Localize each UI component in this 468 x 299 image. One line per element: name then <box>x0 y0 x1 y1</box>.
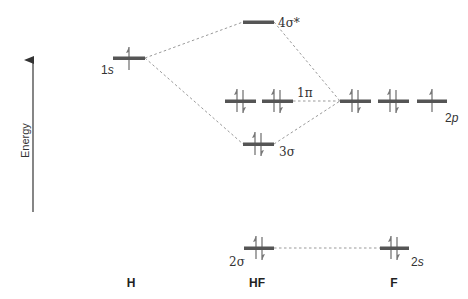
species-label-f: F <box>390 276 397 290</box>
level-f-2p-a <box>340 89 371 113</box>
species-label-hf: HF <box>249 276 265 290</box>
level-bar <box>243 21 274 25</box>
energy-axis: Energy <box>19 60 33 212</box>
energy-axis-label: Energy <box>19 123 31 158</box>
level-bar <box>243 143 274 147</box>
down-electron-head-icon <box>243 107 246 113</box>
up-electron-head-icon <box>234 89 237 95</box>
level-hf-1pi-b: 1π <box>262 86 313 113</box>
level-bar <box>262 100 293 104</box>
level-label-4sigma-star: 4σ* <box>278 16 300 30</box>
level-bar <box>380 247 409 251</box>
connector-3sigma-f2p <box>274 101 340 144</box>
level-label-3sigma: 3σ <box>279 145 295 159</box>
level-bar <box>378 100 409 104</box>
level-bar <box>113 57 145 61</box>
level-f-2s: 2s <box>380 236 424 269</box>
level-hf-4sigma-star: 4σ* <box>243 16 300 30</box>
up-electron-head-icon <box>252 132 255 138</box>
level-label-1s: 1s <box>101 63 114 77</box>
level-bar <box>225 100 256 104</box>
level-f-2p-c: 2p <box>417 89 459 125</box>
level-label-2p: 2p <box>445 111 459 125</box>
level-hf-2sigma: 2σ <box>229 236 274 269</box>
species-label-h: H <box>127 276 136 290</box>
mo-diagram: Energy 1s 4σ* 1π <box>0 0 468 299</box>
level-hf-1pi-a <box>225 89 256 113</box>
connectors <box>145 22 380 248</box>
level-h-1s: 1s <box>101 47 145 77</box>
level-bar <box>417 100 447 104</box>
level-label-2sigma: 2σ <box>229 255 245 269</box>
level-label-2s: 2s <box>411 255 424 269</box>
species-labels: H HF F <box>127 276 398 290</box>
level-f-2p-b <box>378 89 409 113</box>
up-electron-head-icon <box>253 236 256 242</box>
level-label-1pi: 1π <box>297 86 313 100</box>
level-bar <box>244 247 274 251</box>
connector-h1s-4sigma <box>145 22 243 58</box>
level-bar <box>340 100 371 104</box>
up-electron-head-icon <box>126 47 129 53</box>
